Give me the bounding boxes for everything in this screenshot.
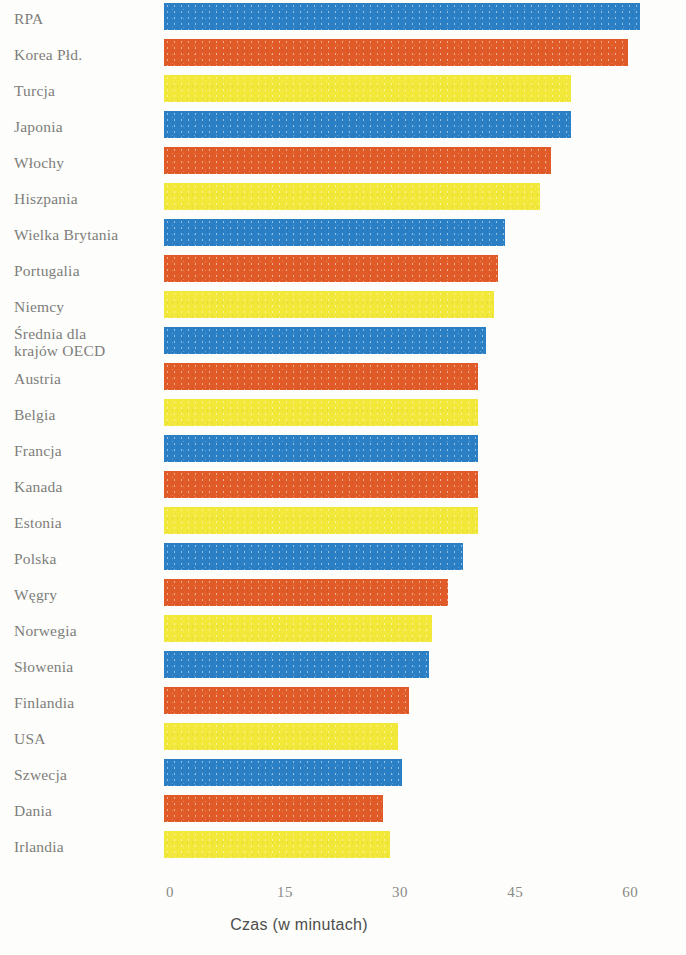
plot-area: RPAKorea Płd.TurcjaJaponiaWłochyHiszpani…: [0, 0, 686, 880]
bar-category-label: Korea Płd.: [14, 36, 160, 72]
bar-track: [164, 327, 486, 354]
bar-row: Hiszpania: [0, 180, 686, 216]
bar-track: [164, 111, 571, 138]
bar: [164, 291, 494, 318]
bar-track: [164, 831, 390, 858]
bar-track: [164, 615, 432, 642]
bar: [164, 831, 390, 858]
bar-category-label: Turcja: [14, 72, 160, 108]
bar: [164, 507, 478, 534]
bar-category-label: Dania: [14, 792, 160, 828]
bar-category-label: Portugalia: [14, 252, 160, 288]
bar: [164, 255, 498, 282]
bar: [164, 651, 429, 678]
bar-track: [164, 435, 478, 462]
bar-category-label: Austria: [14, 360, 160, 396]
bar-category-label: Średnia dla krajów OECD: [14, 324, 160, 360]
bar-track: [164, 219, 505, 246]
bar: [164, 111, 571, 138]
bar: [164, 399, 478, 426]
bar-category-label: Japonia: [14, 108, 160, 144]
bar: [164, 579, 448, 606]
bar: [164, 471, 478, 498]
bar-track: [164, 507, 478, 534]
bar-category-label: Szwecja: [14, 756, 160, 792]
bar-row: Wielka Brytania: [0, 216, 686, 252]
bar-row: Korea Płd.: [0, 36, 686, 72]
bar-row: Japonia: [0, 108, 686, 144]
x-axis-tick-label: 45: [507, 884, 523, 901]
bar-track: [164, 3, 640, 30]
x-axis-tick-label: 0: [166, 884, 174, 901]
bar: [164, 795, 383, 822]
bar-category-label: Węgry: [14, 576, 160, 612]
bar-track: [164, 471, 478, 498]
bar: [164, 759, 402, 786]
bar-track: [164, 255, 498, 282]
bar-row: Austria: [0, 360, 686, 396]
bar-row: Szwecja: [0, 756, 686, 792]
bar: [164, 363, 478, 390]
bar: [164, 687, 409, 714]
bar: [164, 75, 571, 102]
bar: [164, 39, 628, 66]
bar-track: [164, 723, 398, 750]
bar-category-label: Słowenia: [14, 648, 160, 684]
bar: [164, 183, 540, 210]
bar-row: Kanada: [0, 468, 686, 504]
bar: [164, 435, 478, 462]
bar: [164, 327, 486, 354]
bar-track: [164, 291, 494, 318]
bar-row: Norwegia: [0, 612, 686, 648]
bar-track: [164, 39, 628, 66]
bar-category-label: Hiszpania: [14, 180, 160, 216]
bar: [164, 723, 398, 750]
bar-category-label: Wielka Brytania: [14, 216, 160, 252]
bar-row: Turcja: [0, 72, 686, 108]
bar-category-label: Polska: [14, 540, 160, 576]
bar-track: [164, 147, 551, 174]
bar-track: [164, 183, 540, 210]
bar: [164, 219, 505, 246]
bar-category-label: RPA: [14, 0, 160, 36]
bar-row: USA: [0, 720, 686, 756]
x-axis-title-label: Czas (w minutach): [230, 916, 368, 934]
bar-row: Niemcy: [0, 288, 686, 324]
bar-category-label: Kanada: [14, 468, 160, 504]
bar-category-label: Niemcy: [14, 288, 160, 324]
bar-category-label: Francja: [14, 432, 160, 468]
bar-row: Francja: [0, 432, 686, 468]
x-axis: 015304560 Czas (w minutach): [0, 880, 686, 955]
bar-row: Polska: [0, 540, 686, 576]
bar: [164, 615, 432, 642]
bar-category-label: Finlandia: [14, 684, 160, 720]
bar-category-label: Belgia: [14, 396, 160, 432]
bar-track: [164, 651, 429, 678]
bar-track: [164, 75, 571, 102]
x-axis-title: Czas (w minutach): [0, 916, 686, 934]
bar-row: Włochy: [0, 144, 686, 180]
bar-track: [164, 579, 448, 606]
bar-track: [164, 759, 402, 786]
bar-row: Irlandia: [0, 828, 686, 864]
bar: [164, 543, 463, 570]
bar-row: Dania: [0, 792, 686, 828]
bar-category-label: USA: [14, 720, 160, 756]
bar-track: [164, 363, 478, 390]
bar: [164, 3, 640, 30]
bar-chart: RPAKorea Płd.TurcjaJaponiaWłochyHiszpani…: [0, 0, 686, 955]
bar-track: [164, 543, 463, 570]
bar-row: Słowenia: [0, 648, 686, 684]
bar-category-label: Norwegia: [14, 612, 160, 648]
x-axis-tick-label: 15: [277, 884, 293, 901]
bar-track: [164, 687, 409, 714]
bar-category-label: Włochy: [14, 144, 160, 180]
bar-category-label: Irlandia: [14, 828, 160, 864]
bar-row: Belgia: [0, 396, 686, 432]
bar-category-label: Estonia: [14, 504, 160, 540]
x-axis-tick-label: 30: [392, 884, 408, 901]
bar-row: RPA: [0, 0, 686, 36]
bar-track: [164, 399, 478, 426]
bar-row: Estonia: [0, 504, 686, 540]
x-axis-tick-label: 60: [622, 884, 638, 901]
